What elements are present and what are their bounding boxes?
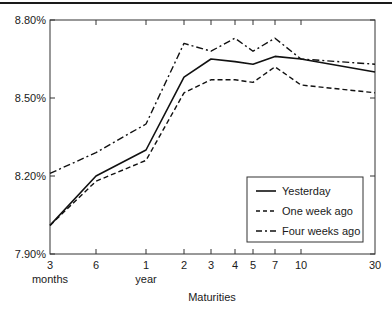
x-axis: 3months61year234571030 bbox=[32, 20, 381, 285]
legend-label-yesterday: Yesterday bbox=[282, 185, 331, 197]
x-tick-label: 5 bbox=[250, 259, 256, 271]
legend-label-one-week-ago: One week ago bbox=[282, 205, 353, 217]
x-tick-label: 3 bbox=[208, 259, 214, 271]
x-tick-label: 10 bbox=[295, 259, 307, 271]
x-tick-sublabel: year bbox=[135, 273, 157, 285]
y-tick-label: 7.90% bbox=[15, 248, 46, 260]
x-tick-label: 2 bbox=[181, 259, 187, 271]
x-axis-title: Maturities bbox=[188, 291, 236, 303]
x-tick-label: 1 bbox=[143, 259, 149, 271]
x-tick-label: 6 bbox=[93, 259, 99, 271]
y-tick-label: 8.80% bbox=[15, 14, 46, 26]
legend: Yesterday One week ago Four weeks ago bbox=[247, 177, 363, 242]
x-tick-label: 3 bbox=[47, 259, 53, 271]
x-tick-label: 30 bbox=[369, 259, 381, 271]
legend-label-four-weeks-ago: Four weeks ago bbox=[282, 225, 360, 237]
y-tick-label: 8.50% bbox=[15, 92, 46, 104]
x-tick-sublabel: months bbox=[32, 273, 69, 285]
x-tick-label: 4 bbox=[232, 259, 238, 271]
yield-curve-chart: 8.80%8.50%8.20%7.90% 3months61year234571… bbox=[0, 0, 392, 311]
y-tick-label: 8.20% bbox=[15, 170, 46, 182]
x-tick-label: 7 bbox=[272, 259, 278, 271]
